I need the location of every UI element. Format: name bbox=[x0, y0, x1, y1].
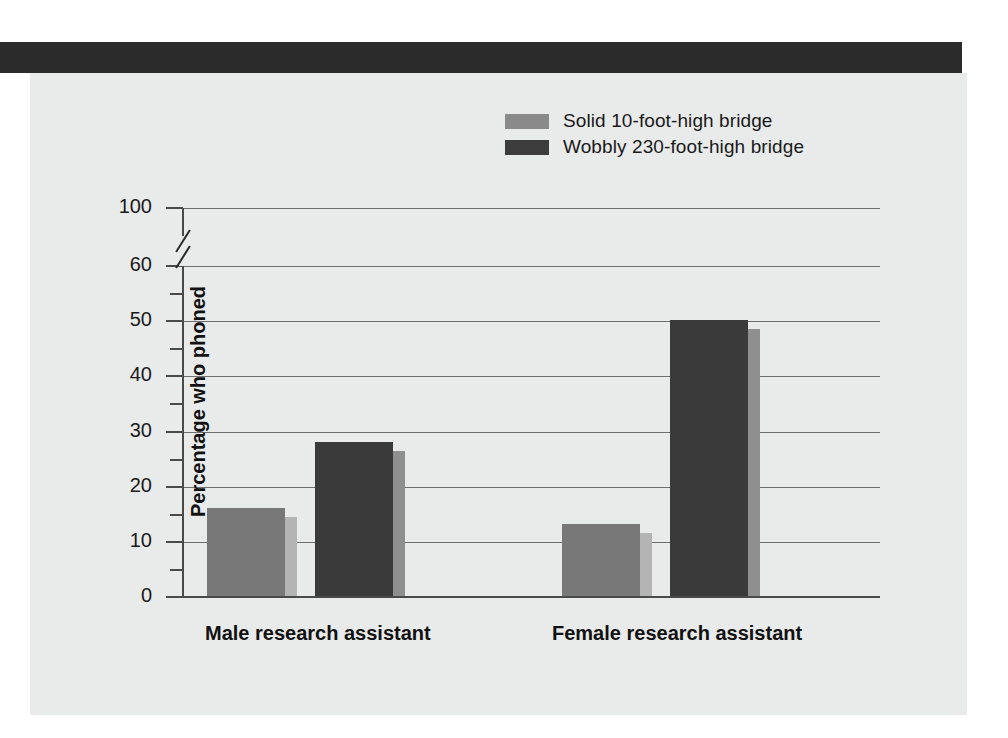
legend-item-wobbly-bridge: Wobbly 230-foot-high bridge bbox=[505, 134, 804, 160]
figure-stage: Solid 10-foot-high bridge Wobbly 230-foo… bbox=[0, 0, 1008, 738]
legend-item-solid-bridge: Solid 10-foot-high bridge bbox=[505, 108, 804, 134]
legend-label-wobbly-bridge: Wobbly 230-foot-high bridge bbox=[563, 136, 804, 158]
chart-legend: Solid 10-foot-high bridge Wobbly 230-foo… bbox=[505, 108, 804, 160]
legend-label-solid-bridge: Solid 10-foot-high bridge bbox=[563, 110, 773, 132]
top-banner bbox=[0, 42, 962, 73]
figure-panel bbox=[30, 73, 967, 715]
legend-swatch-solid-bridge bbox=[505, 114, 549, 129]
legend-swatch-wobbly-bridge bbox=[505, 140, 549, 155]
